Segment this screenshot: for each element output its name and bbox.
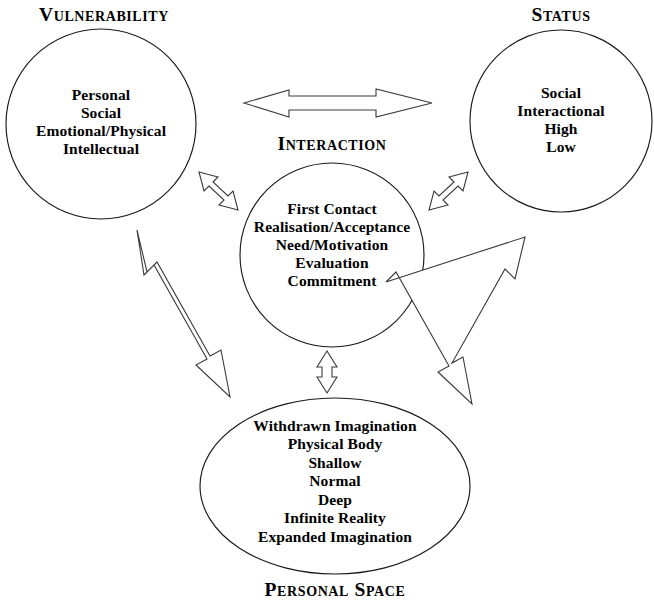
node-text-line: Normal: [185, 472, 485, 490]
node-text-line: Social: [0, 104, 202, 122]
node-text-line: Need/Motivation: [232, 236, 432, 254]
node-text-line: Deep: [185, 491, 485, 509]
caption-personal-space: Personal Space: [190, 579, 480, 601]
caption-interaction: Interaction: [237, 133, 427, 155]
node-text-line: Low: [461, 138, 654, 156]
node-text-line: Social: [461, 84, 654, 102]
node-text-line: Intellectual: [0, 140, 202, 158]
node-text-line: Commitment: [232, 272, 432, 290]
personal-space-items: Withdrawn ImaginationPhysical BodyShallo…: [185, 417, 485, 546]
connector-interaction-personal-space-arrow: [317, 351, 337, 393]
connector-vulnerability-status-arrow: [244, 89, 432, 117]
node-text-line: Evaluation: [232, 254, 432, 272]
connector-status-interaction-arrow: [429, 172, 468, 210]
caption-vulnerability: Vulnerability: [6, 4, 202, 26]
node-text-line: Expanded Imagination: [185, 528, 485, 546]
node-text-line: Infinite Reality: [185, 509, 485, 527]
node-text-line: Interactional: [461, 102, 654, 120]
node-text-line: Personal: [0, 86, 202, 104]
node-text-line: Shallow: [185, 454, 485, 472]
caption-status: Status: [466, 4, 654, 26]
node-text-line: First Contact: [232, 200, 432, 218]
node-text-line: Emotional/Physical: [0, 122, 202, 140]
diagram-canvas: Vulnerability Status Interaction Persona…: [0, 0, 654, 606]
node-text-line: Withdrawn Imagination: [185, 417, 485, 435]
status-items: SocialInteractionalHighLow: [461, 84, 654, 156]
vulnerability-items: PersonalSocialEmotional/PhysicalIntellec…: [0, 86, 202, 158]
node-text-line: High: [461, 120, 654, 138]
connector-vulnerability-personal-space-arrow: [137, 230, 230, 397]
node-text-line: Realisation/Acceptance: [232, 218, 432, 236]
interaction-items: First ContactRealisation/AcceptanceNeed/…: [232, 200, 432, 290]
node-text-line: Physical Body: [185, 435, 485, 453]
